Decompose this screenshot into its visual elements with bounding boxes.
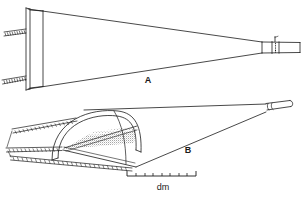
figure-background: [0, 0, 306, 200]
technical-drawing-canvas: A: [0, 0, 306, 200]
scale-bar-unit-label: dm: [157, 182, 170, 192]
figure-container: A: [0, 0, 306, 200]
panel-a-neck-bottom: [262, 53, 300, 54]
panel-a-label: A: [145, 75, 152, 85]
panel-b-label: B: [185, 145, 192, 155]
panel-a-neck-top: [262, 42, 300, 43]
